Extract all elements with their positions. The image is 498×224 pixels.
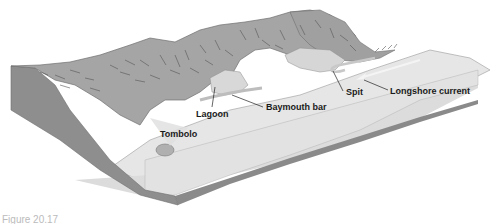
terrain-illustration — [0, 0, 498, 224]
baymouth-leader — [232, 95, 263, 107]
tombolo-island — [156, 144, 174, 156]
label-longshore-current: Longshore current — [390, 87, 470, 96]
block-diagram: Lagoon Baymouth bar Spit Longshore curre… — [0, 0, 498, 224]
label-spit: Spit — [346, 88, 363, 97]
label-lagoon: Lagoon — [196, 110, 229, 119]
label-tombolo: Tombolo — [160, 130, 197, 139]
figure-caption: Figure 20.17 — [2, 214, 58, 224]
label-baymouth-bar: Baymouth bar — [266, 103, 327, 112]
